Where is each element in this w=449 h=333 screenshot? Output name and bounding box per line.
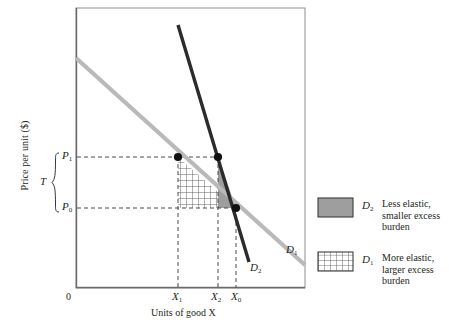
- legend-curve-label-d2: D2: [362, 199, 373, 211]
- y-tick-p0-base: P: [62, 200, 69, 212]
- x-tick-label-x0: X0: [231, 290, 241, 302]
- legend-d1-line-1: More elastic,: [382, 252, 434, 264]
- tax-bracket-label: T: [40, 175, 46, 187]
- legend-curve-label-d1: D1: [362, 253, 373, 265]
- x-tick-label-x1: X1: [172, 290, 182, 302]
- legend-d1-line-3: burden: [382, 275, 434, 287]
- legend-d2-base: D: [362, 199, 370, 211]
- origin-label: 0: [66, 291, 71, 302]
- point-x0-p0: [232, 204, 240, 212]
- x-tick-x2-sub: 2: [218, 296, 222, 304]
- x-tick-x1-base: X: [172, 290, 179, 302]
- y-tick-p0-sub: 0: [69, 206, 73, 214]
- legend-description-d1: More elastic, larger excess burden: [382, 252, 434, 287]
- x-tick-x1-sub: 1: [179, 296, 183, 304]
- legend-description-d2: Less elastic, smaller excess burden: [382, 198, 440, 233]
- y-tick-label-p0: P0: [62, 200, 72, 212]
- y-tick-p1-base: P: [62, 149, 69, 161]
- y-axis-title: Price per unit ($): [19, 96, 30, 216]
- legend-d2-line-2: smaller excess: [382, 210, 440, 222]
- x-tick-x0-sub: 0: [238, 296, 242, 304]
- x-tick-x0-base: X: [231, 290, 238, 302]
- curve-label-d1-sub: 1: [294, 249, 298, 257]
- legend-d2-sub: 2: [370, 205, 374, 213]
- legend-d2-line-1: Less elastic,: [382, 198, 440, 210]
- legend-d1-sub: 1: [370, 259, 374, 267]
- point-x2-p1: [214, 153, 222, 161]
- x-tick-x2-base: X: [211, 290, 218, 302]
- y-tick-label-p1: P1: [62, 149, 72, 161]
- x-tick-label-x2: X2: [211, 290, 221, 302]
- point-x1-p1: [174, 153, 182, 161]
- curve-label-d1-base: D: [286, 243, 294, 255]
- curve-label-d1: D1: [286, 243, 297, 255]
- curve-label-d2: D2: [250, 261, 261, 273]
- curve-label-d2-base: D: [250, 261, 258, 273]
- legend-swatch-d2: [318, 198, 353, 217]
- plot-frame: [76, 8, 305, 288]
- legend-d1-line-2: larger excess: [382, 264, 434, 276]
- legend-swatch-d1: [318, 252, 353, 271]
- curve-label-d2-sub: 2: [258, 267, 262, 275]
- legend-d1-base: D: [362, 253, 370, 265]
- tax-bracket-brace: [52, 153, 59, 212]
- legend-d2-line-3: burden: [382, 221, 440, 233]
- y-tick-p1-sub: 1: [69, 155, 73, 163]
- x-axis-title: Units of good X: [151, 307, 216, 318]
